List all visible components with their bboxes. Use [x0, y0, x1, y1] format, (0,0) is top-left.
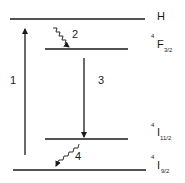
- transition-2-label: 2: [72, 29, 78, 40]
- level-F3-2-main: F: [157, 39, 164, 50]
- energy-diagram-canvas: [0, 0, 185, 183]
- level-I11-2-superscript: 4: [151, 122, 154, 128]
- transition-1-label: 1: [10, 75, 16, 86]
- level-I9-2-superscript: 4: [151, 154, 154, 160]
- transition-4-label: 4: [75, 151, 81, 162]
- level-I11-2-subscript: 11/2: [160, 135, 171, 141]
- level-I9-2-main: I: [157, 160, 160, 171]
- transition-3-label: 3: [98, 75, 104, 86]
- transition-2-wavy-arrow: [53, 28, 69, 47]
- level-F3-2-superscript: 4: [151, 33, 154, 39]
- level-label-H: H: [157, 11, 165, 22]
- level-F3-2-subscript: 3/2: [164, 47, 172, 53]
- level-I9-2-subscript: 9/2: [161, 168, 169, 174]
